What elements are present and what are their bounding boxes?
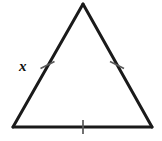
geometry-figure-canvas: x [0, 0, 162, 141]
left-side-length-label: x [19, 59, 27, 74]
triangle-edges [13, 4, 152, 127]
congruence-tick-marks [41, 62, 125, 135]
